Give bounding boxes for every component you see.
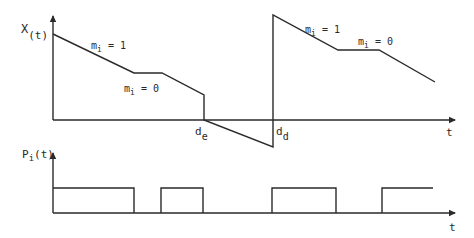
annotation-rest: = 0 xyxy=(369,36,393,47)
pulse-3 xyxy=(272,188,336,213)
bottom-y-label-rest: (t) xyxy=(34,148,54,161)
marker-main: d xyxy=(276,125,283,138)
marker-main: d xyxy=(195,125,202,138)
marker-sub: e xyxy=(202,131,208,142)
top-y-label: X(t) xyxy=(21,22,48,42)
bottom-y-label: Pi(t) xyxy=(22,148,54,163)
marker-de: de xyxy=(195,125,208,142)
pulse-4 xyxy=(382,188,433,213)
annotation-m0-first: mi = 0 xyxy=(124,83,159,97)
annotation-rest: = 1 xyxy=(102,40,126,51)
annotation-rest: = 0 xyxy=(135,83,159,94)
pulse-2 xyxy=(161,188,203,213)
top-plot: X(t) t mi = 1 mi = 0 mi = 1 mi = 0 de dd xyxy=(21,15,455,147)
p-of-t-pulse-train xyxy=(53,188,134,213)
annotation-m0-second: mi = 0 xyxy=(358,36,393,50)
annotation-rest: = 1 xyxy=(316,24,340,35)
top-x-label: t xyxy=(446,126,453,139)
annotation-m1-second: mi = 1 xyxy=(305,24,340,38)
timing-diagram: X(t) t mi = 1 mi = 0 mi = 1 mi = 0 de dd xyxy=(0,0,474,238)
marker-sub: d xyxy=(283,131,289,142)
bottom-x-label: t xyxy=(449,221,456,234)
x-of-t-curve xyxy=(53,15,435,147)
top-y-label-sub: (t) xyxy=(28,29,48,42)
marker-dd: dd xyxy=(276,125,289,142)
annotation-m1-first: mi = 1 xyxy=(91,40,126,54)
bottom-plot: Pi(t) t xyxy=(22,148,456,234)
